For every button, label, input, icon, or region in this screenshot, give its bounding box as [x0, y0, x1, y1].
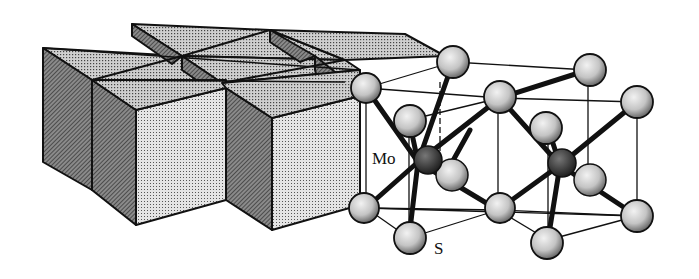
- s-atom: [485, 193, 515, 223]
- s-atom: [394, 105, 426, 137]
- s-atom: [437, 46, 469, 78]
- mo-label: Mo: [370, 150, 398, 167]
- s-atom: [574, 164, 606, 196]
- s-atom: [351, 73, 381, 103]
- s-atom: [484, 81, 516, 113]
- s-atom: [531, 227, 563, 259]
- s-atom: [621, 86, 653, 118]
- prism-layer: [43, 24, 445, 230]
- s-atom: [574, 54, 606, 86]
- mo-atom: [414, 146, 442, 174]
- s-atom: [621, 200, 653, 232]
- s-atom: [530, 112, 562, 144]
- s-atom: [394, 222, 426, 254]
- mo-atom: [548, 149, 576, 177]
- s-atom: [349, 193, 379, 223]
- mos2-structure-diagram: [0, 0, 699, 279]
- s-label: S: [434, 240, 443, 257]
